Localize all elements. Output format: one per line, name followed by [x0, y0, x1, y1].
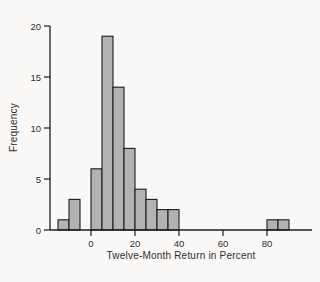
y-tick-label: 15 [30, 72, 41, 83]
histogram-chart: 05101520020406080 [0, 0, 320, 282]
y-axis-title: Frequency [8, 26, 21, 230]
histogram-bar [278, 220, 289, 230]
x-tick-label: 20 [130, 238, 141, 249]
histogram-bar [69, 199, 80, 230]
x-tick-label: 60 [218, 238, 229, 249]
x-axis-title: Twelve-Month Return in Percent [50, 250, 312, 263]
histogram-bar [113, 87, 124, 230]
histogram-figure: 05101520020406080 Frequency Twelve-Month… [0, 0, 320, 282]
x-tick-label: 0 [88, 238, 93, 249]
histogram-bar [124, 148, 135, 230]
histogram-bar [267, 220, 278, 230]
histogram-bar [168, 210, 179, 230]
histogram-bar [135, 189, 146, 230]
histogram-bar [102, 36, 113, 230]
histogram-bar [58, 220, 69, 230]
histogram-bar [157, 210, 168, 230]
y-tick-label: 0 [36, 225, 41, 236]
histogram-bar [146, 199, 157, 230]
y-tick-label: 20 [30, 21, 41, 32]
y-tick-label: 10 [30, 123, 41, 134]
x-tick-label: 40 [174, 238, 185, 249]
histogram-bar [91, 169, 102, 230]
x-tick-label: 80 [262, 238, 273, 249]
y-tick-label: 5 [36, 174, 41, 185]
